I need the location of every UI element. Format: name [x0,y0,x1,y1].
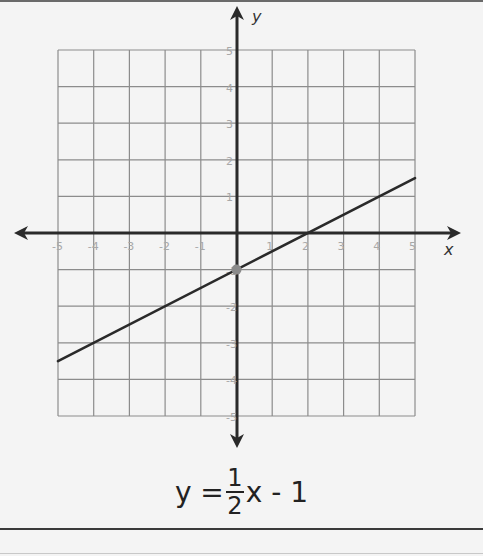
divider-line [0,528,483,530]
y-tick-label: 2 [226,155,233,168]
highlighted-points [232,265,242,275]
equation-rhs: x - 1 [246,476,308,509]
fraction-denominator: 2 [227,494,242,518]
equation-lhs: y = [175,476,224,509]
fraction: 1 2 [226,466,244,518]
y-tick-label: -2 [226,301,237,314]
y-tick-label: 1 [226,191,233,204]
y-tick-label: 5 [226,45,233,58]
y-tick-label: -3 [226,338,237,351]
x-tick-label: -4 [88,240,99,253]
x-axis-label: x [443,240,454,259]
fraction-numerator: 1 [227,466,242,490]
y-tick-label: -4 [226,374,237,387]
faint-divider-line [0,553,483,554]
x-tick-label: -1 [195,240,206,253]
x-tick-label: -5 [52,240,63,253]
coordinate-plane: -5-4-3-2-11234554321-1-2-3-4-5 y x [0,0,483,460]
axes [14,6,461,448]
x-tick-label: 2 [302,240,309,253]
y-axis-label: y [251,7,262,26]
x-tick-label: -2 [159,240,170,253]
y-tick-label: 4 [226,82,233,95]
x-tick-label: -3 [123,240,134,253]
x-tick-label: 3 [338,240,345,253]
y-tick-label: 3 [226,118,233,131]
x-tick-label: 4 [373,240,380,253]
y-intercept-point [232,265,242,275]
equation: y = 1 2 x - 1 [0,466,483,518]
x-tick-label: 5 [409,240,416,253]
y-tick-label: -5 [226,411,237,424]
